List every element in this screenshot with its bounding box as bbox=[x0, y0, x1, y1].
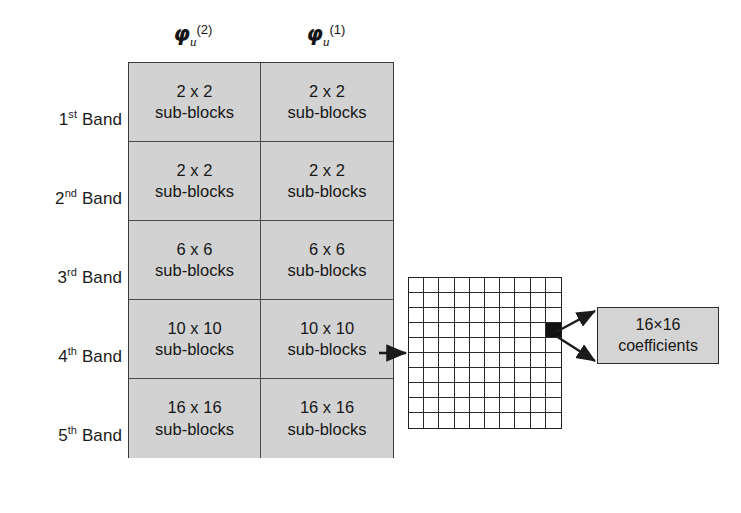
grid-cell bbox=[439, 308, 454, 323]
grid-cell bbox=[409, 413, 424, 428]
grid-cell bbox=[470, 308, 485, 323]
grid-cell bbox=[439, 368, 454, 383]
grid-cell bbox=[439, 278, 454, 293]
grid-cell bbox=[546, 368, 561, 383]
grid-cell bbox=[515, 398, 530, 413]
grid-cell bbox=[470, 383, 485, 398]
subblock-count: 2 x 2 bbox=[309, 160, 345, 181]
grid-cell bbox=[546, 278, 561, 293]
subblock-count: 2 x 2 bbox=[177, 81, 213, 102]
grid-cell bbox=[439, 293, 454, 308]
subblock-unit: sub-blocks bbox=[288, 102, 367, 123]
subblock-unit: sub-blocks bbox=[288, 181, 367, 202]
grid-cell bbox=[409, 293, 424, 308]
row-ordinal: 1 bbox=[59, 110, 69, 129]
band-subblock-table: 2 x 2 sub-blocks 2 x 2 sub-blocks 2 x 2 … bbox=[128, 62, 394, 458]
column-header-phi-u-1: φu(1) bbox=[261, 22, 391, 46]
grid-cell bbox=[424, 413, 439, 428]
subblock-count: 10 x 10 bbox=[300, 318, 354, 339]
row-ordinal: 3 bbox=[58, 268, 68, 287]
callout-line-2: coefficients bbox=[618, 336, 698, 357]
grid-cell bbox=[485, 383, 500, 398]
subblock-count: 2 x 2 bbox=[177, 160, 213, 181]
grid-cell bbox=[409, 353, 424, 368]
grid-cell bbox=[455, 368, 470, 383]
row-label-tail: Band bbox=[77, 110, 122, 129]
grid-cell bbox=[424, 293, 439, 308]
grid-cell bbox=[485, 308, 500, 323]
row-ordinal: 5 bbox=[58, 426, 68, 445]
grid-cell bbox=[500, 323, 515, 338]
grid-cell bbox=[531, 398, 546, 413]
row-label-band-2: 2nd Band bbox=[18, 189, 122, 209]
row-ordinal: 2 bbox=[55, 189, 65, 208]
subblock-unit: sub-blocks bbox=[155, 181, 234, 202]
grid-cell bbox=[455, 278, 470, 293]
grid-cell bbox=[439, 323, 454, 338]
grid-cell bbox=[409, 398, 424, 413]
grid-cell bbox=[470, 413, 485, 428]
grid-cell bbox=[515, 278, 530, 293]
row-ordinal-suffix: th bbox=[68, 345, 77, 357]
grid-cell bbox=[485, 413, 500, 428]
grid-cell bbox=[470, 323, 485, 338]
grid-cell bbox=[470, 278, 485, 293]
grid-cell bbox=[485, 368, 500, 383]
grid-cell bbox=[531, 413, 546, 428]
coefficients-callout-box: 16×16 coefficients bbox=[597, 307, 719, 364]
grid-cell bbox=[455, 383, 470, 398]
grid-cell bbox=[546, 413, 561, 428]
subblock-unit: sub-blocks bbox=[155, 339, 234, 360]
grid-cell bbox=[546, 308, 561, 323]
grid-cell bbox=[546, 293, 561, 308]
grid-cell bbox=[439, 383, 454, 398]
table-cell-band1-phi1: 2 x 2 sub-blocks bbox=[261, 63, 393, 142]
coefficient-grid bbox=[408, 277, 562, 429]
phi-symbol: φ bbox=[174, 22, 190, 46]
grid-cell bbox=[500, 413, 515, 428]
grid-cell bbox=[470, 353, 485, 368]
grid-cell bbox=[500, 338, 515, 353]
table-cell-band2-phi1: 2 x 2 sub-blocks bbox=[261, 142, 393, 221]
subblock-unit: sub-blocks bbox=[288, 419, 367, 440]
grid-cell bbox=[500, 398, 515, 413]
grid-cell bbox=[500, 368, 515, 383]
grid-cell bbox=[531, 293, 546, 308]
band-subblock-diagram: φu(2) φu(1) 1st Band 2nd Band 3rd Band 4… bbox=[0, 0, 741, 513]
row-label-tail: Band bbox=[77, 347, 122, 366]
grid-cell bbox=[470, 293, 485, 308]
grid-cell bbox=[455, 293, 470, 308]
grid-cell bbox=[409, 323, 424, 338]
grid-cell bbox=[546, 338, 561, 353]
grid-cell bbox=[409, 338, 424, 353]
subblock-unit: sub-blocks bbox=[155, 102, 234, 123]
subblock-count: 6 x 6 bbox=[177, 239, 213, 260]
callout-line-1: 16×16 bbox=[636, 315, 681, 336]
grid-cell bbox=[439, 353, 454, 368]
grid-cell-highlighted bbox=[546, 323, 561, 338]
grid-cell bbox=[500, 308, 515, 323]
grid-cell bbox=[515, 368, 530, 383]
subblock-unit: sub-blocks bbox=[155, 419, 234, 440]
row-label-band-5: 5th Band bbox=[18, 426, 122, 446]
grid-cell bbox=[546, 398, 561, 413]
grid-cell bbox=[409, 383, 424, 398]
row-label-tail: Band bbox=[77, 426, 122, 445]
row-ordinal: 4 bbox=[58, 347, 68, 366]
table-cell-band1-phi2: 2 x 2 sub-blocks bbox=[129, 63, 261, 142]
table-cell-band3-phi1: 6 x 6 sub-blocks bbox=[261, 221, 393, 300]
phi-symbol: φ bbox=[307, 22, 323, 46]
row-ordinal-suffix: nd bbox=[65, 187, 77, 199]
grid-cell bbox=[531, 323, 546, 338]
grid-cell bbox=[424, 278, 439, 293]
grid-cell bbox=[455, 338, 470, 353]
grid-cell bbox=[485, 398, 500, 413]
grid-cell bbox=[424, 323, 439, 338]
subblock-unit: sub-blocks bbox=[288, 339, 367, 360]
grid-cell bbox=[485, 293, 500, 308]
grid-cell bbox=[439, 413, 454, 428]
grid-cell bbox=[546, 353, 561, 368]
subblock-count: 2 x 2 bbox=[309, 81, 345, 102]
grid-cell bbox=[470, 368, 485, 383]
row-ordinal-suffix: th bbox=[68, 424, 77, 436]
